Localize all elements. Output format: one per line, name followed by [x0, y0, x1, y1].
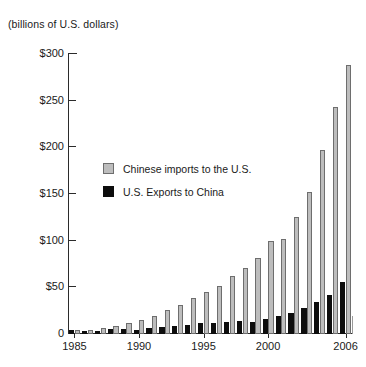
y-axis-label: $100 [6, 234, 64, 246]
x-axis-tick [204, 334, 205, 338]
bar-imports-1989 [126, 323, 131, 334]
legend-label: U.S. Exports to China [123, 186, 224, 198]
bar-exports-1994 [185, 325, 190, 334]
y-axis-tick [69, 146, 76, 147]
bar-imports-2001 [281, 239, 286, 334]
bar-imports-2006 [346, 65, 351, 334]
bar-imports-1986 [88, 330, 93, 334]
bar-imports-1995 [204, 292, 209, 334]
bar-imports-2003 [307, 192, 312, 334]
bar-imports-1990 [139, 320, 144, 334]
bar-imports-1993 [178, 305, 183, 334]
bar-imports-1999 [255, 258, 260, 334]
bar-exports-2004 [314, 302, 319, 334]
bar-imports-1996 [217, 286, 222, 334]
bar-imports-1985 [75, 330, 80, 334]
bar-imports-1998 [243, 268, 248, 334]
y-axis-tick [69, 193, 76, 194]
legend-swatch-icon [103, 163, 114, 174]
bar-exports-2000 [263, 319, 268, 334]
bar-exports-1996 [211, 323, 216, 334]
x-axis-tick [346, 334, 347, 338]
bar-imports-2004 [320, 150, 325, 334]
bar-imports-1991 [152, 316, 157, 334]
y-axis-label: $250 [6, 94, 64, 106]
x-axis-tick [139, 334, 140, 338]
bar-exports-2005 [327, 295, 332, 334]
bar-imports-1997 [230, 276, 235, 334]
bar-exports-2003 [301, 308, 306, 335]
x-axis-label: 2006 [333, 340, 357, 352]
y-axis-label: $300 [6, 47, 64, 59]
bar-exports-1999 [250, 322, 255, 334]
y-axis-tick [69, 286, 76, 287]
x-axis-label: 1990 [127, 340, 151, 352]
bar-imports-2000 [268, 241, 273, 334]
x-axis-label: 1985 [62, 340, 86, 352]
bar-imports-1988 [113, 326, 118, 334]
bar-exports-1997 [224, 322, 229, 334]
chart-legend: Chinese imports to the U.S.U.S. Exports … [103, 160, 251, 206]
bar-imports-1987 [101, 328, 106, 334]
legend-item-chinese-imports: Chinese imports to the U.S. [103, 160, 251, 177]
x-axis-label: 1995 [191, 340, 215, 352]
bar-imports-2005 [333, 107, 338, 334]
bar-exports-1992 [159, 327, 164, 334]
bar-exports-1998 [237, 321, 242, 334]
bar-exports-1986 [82, 331, 87, 334]
bar-exports-1989 [121, 329, 126, 334]
bar-imports-2002 [294, 217, 299, 334]
bar-exports-1990 [134, 330, 139, 334]
bar-exports-1993 [172, 326, 177, 334]
bar-exports-2006 [340, 282, 345, 334]
bar-exports-1988 [108, 329, 113, 334]
y-axis-tick [69, 100, 76, 101]
legend-item-us-exports: U.S. Exports to China [103, 183, 251, 200]
x-axis-tick [268, 334, 269, 338]
legend-swatch-icon [103, 186, 114, 197]
y-axis-label: $200 [6, 140, 64, 152]
y-axis-label: 0 [6, 327, 64, 339]
bar-exports-1985 [69, 330, 74, 334]
bar-exports-2002 [288, 313, 293, 334]
y-axis-label: $150 [6, 187, 64, 199]
chart-figure: (billions of U.S. dollars) 0$50$100$150$… [0, 0, 366, 367]
bar-exports-2001 [276, 316, 281, 334]
x-axis-tick [74, 334, 75, 338]
x-axis-label: 2000 [256, 340, 280, 352]
bar-exports-1991 [146, 328, 151, 334]
y-axis-labels: 0$50$100$150$200$250$300 [0, 0, 64, 367]
bar-imports-1994 [191, 298, 196, 334]
bar-imports-1992 [165, 310, 170, 334]
y-axis-tick [69, 240, 76, 241]
legend-label: Chinese imports to the U.S. [123, 163, 251, 175]
y-axis-label: $50 [6, 280, 64, 292]
bar-exports-1995 [198, 323, 203, 334]
bar-exports-1987 [95, 331, 100, 334]
